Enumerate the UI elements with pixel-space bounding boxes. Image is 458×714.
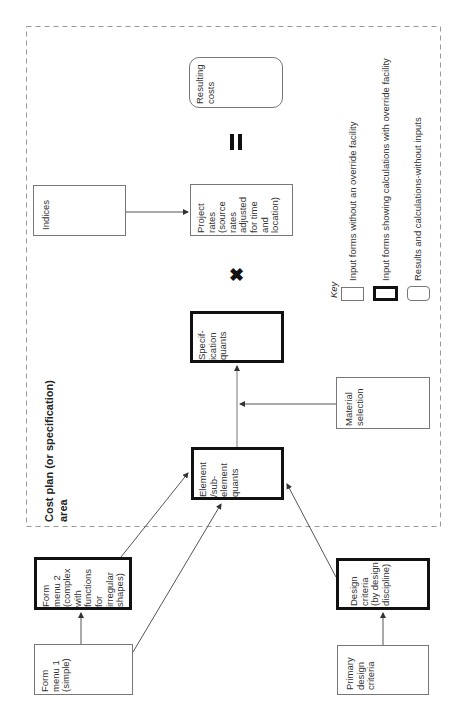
key-label-plain: Input forms without an override facility xyxy=(348,61,360,281)
form-menu-1-label: Form menu 1 (simple) xyxy=(40,644,130,692)
key-label-rounded: Results and calculations-without inputs xyxy=(413,61,425,281)
specification-quants-label: Specif- ication quants xyxy=(197,310,277,360)
indices-label: Indices xyxy=(41,180,121,230)
material-selection-label: Material selection xyxy=(344,376,424,426)
design-criteria-label: Design criteria (by design discipline) xyxy=(349,556,429,606)
key-swatch-thick xyxy=(373,286,398,301)
cost-plan-area-title: Cost plan (or specification) area xyxy=(42,362,56,522)
form-menu-2-label: Form menu 2 (complex with functions for … xyxy=(41,559,131,607)
primary-design-criteria-label: Primary design criteria xyxy=(345,644,429,690)
key-swatch-plain xyxy=(341,287,364,301)
key-swatch-rounded xyxy=(407,286,430,301)
project-rates-label: Project rates (source rates adjusted for… xyxy=(196,183,292,233)
multiply-operator: ✖ xyxy=(229,264,244,286)
element-quants-label: Element /sub- element quants xyxy=(198,447,278,497)
resulting-costs-label: Resulting costs xyxy=(195,54,275,104)
key-label-thick: Input forms showing calculations with ov… xyxy=(381,21,393,281)
equals-operator xyxy=(230,134,243,150)
key-title: Key xyxy=(329,268,341,298)
